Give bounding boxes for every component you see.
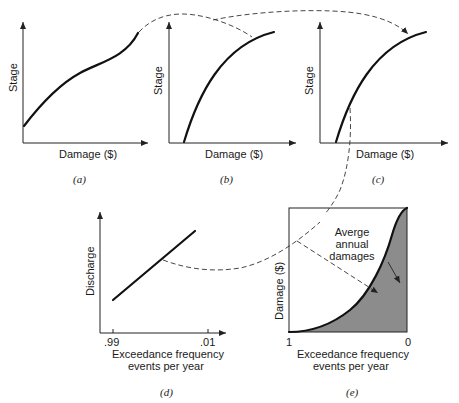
annotation-line2: annual	[335, 238, 368, 250]
x-axis-label: Damage ($)	[59, 148, 117, 160]
y-axis-label: Discharge	[84, 246, 96, 296]
tick-label-left: .99	[104, 336, 119, 348]
annotation-line1: Averge	[335, 226, 370, 238]
y-axis-label: Damage ($)	[273, 262, 285, 320]
panel-caption: (e)	[346, 386, 359, 399]
panel-c: Stage Damage ($) (c)	[303, 22, 448, 186]
x-axis-label-line1: Exceedance frequency	[112, 348, 224, 360]
stage-damage-curve	[336, 32, 426, 142]
x-axis-label-line2: events per year	[128, 360, 204, 372]
panel-b: Stage Damage ($) (b)	[152, 22, 296, 186]
x-axis-label: Damage ($)	[205, 148, 263, 160]
connector-d-to-e	[163, 222, 320, 270]
x-axis-label: Damage ($)	[356, 148, 414, 160]
flood-damage-diagram: Stage Damage ($) (a) Stage Damage ($) (b…	[0, 0, 459, 403]
y-axis-label: Stage	[7, 63, 19, 92]
x-axis-label-line2: events per year	[313, 360, 389, 372]
stage-damage-curve	[24, 33, 138, 126]
panel-caption: (b)	[220, 173, 233, 186]
x-axis-label-line1: Exceedance frequency	[297, 348, 409, 360]
connector-c-to-e	[325, 108, 351, 214]
tick-label-right: 0	[405, 336, 411, 348]
tick-label-left: 1	[286, 336, 292, 348]
panel-caption: (a)	[73, 173, 86, 186]
frequency-discharge-line	[113, 231, 195, 300]
y-axis-label: Stage	[303, 66, 315, 95]
panel-a: Stage Damage ($) (a)	[7, 22, 148, 186]
panel-e: Averge annual damages Damage ($) 1 0 Exc…	[273, 208, 411, 399]
stage-damage-curve	[184, 32, 274, 142]
tick-label-right: .01	[200, 336, 215, 348]
panel-caption: (c)	[372, 173, 385, 186]
panel-d: Discharge .99 .01 Exceedance frequency e…	[84, 212, 226, 399]
connector-a-to-b	[139, 14, 252, 37]
y-axis-label: Stage	[152, 66, 164, 95]
connector-b-to-c	[213, 11, 408, 34]
panel-caption: (d)	[160, 386, 173, 399]
annotation-line3: damages	[329, 250, 375, 262]
